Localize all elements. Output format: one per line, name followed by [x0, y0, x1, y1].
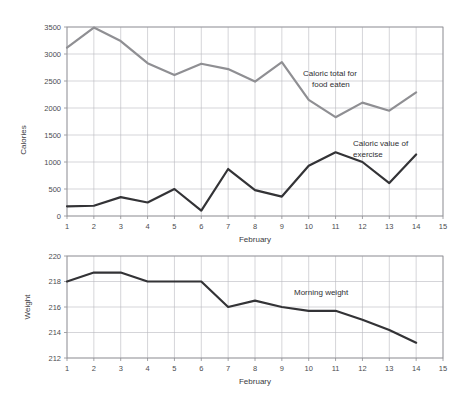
y-tick-label: 1500 — [44, 131, 61, 140]
x-tick-label: 10 — [305, 222, 313, 231]
x-tick-label: 8 — [253, 364, 257, 373]
annotation-exercise-line1: Caloric value of — [353, 139, 409, 148]
x-axis-title: February — [239, 235, 271, 244]
x-tick-label: 13 — [385, 364, 393, 373]
x-tick-label: 10 — [305, 364, 313, 373]
y-tick-label: 3500 — [44, 23, 61, 32]
x-tick-label: 2 — [92, 364, 96, 373]
x-tick-label: 14 — [412, 364, 420, 373]
x-tick-label: 5 — [172, 222, 176, 231]
y-tick-label: 218 — [48, 277, 61, 286]
x-tick-label: 3 — [119, 222, 123, 231]
x-tick-label: 5 — [172, 364, 176, 373]
x-tick-label: 9 — [280, 222, 284, 231]
annotation-exercise-line2: exercise — [353, 150, 383, 159]
figure-root: 0500100015002000250030003500123456789101… — [0, 0, 453, 402]
x-tick-label: 15 — [439, 222, 447, 231]
x-tick-label: 12 — [358, 222, 366, 231]
y-tick-label: 500 — [48, 185, 61, 194]
series-line-food-eaten — [67, 28, 416, 118]
x-tick-label: 3 — [119, 364, 123, 373]
y-tick-label: 2500 — [44, 77, 61, 86]
x-tick-label: 1 — [65, 364, 69, 373]
x-tick-label: 7 — [226, 364, 230, 373]
annotation-morning-weight: Morning weight — [294, 288, 349, 297]
y-tick-label: 220 — [48, 252, 61, 261]
x-tick-label: 9 — [280, 364, 284, 373]
y-tick-label: 1000 — [44, 158, 61, 167]
chart-page: 0500100015002000250030003500123456789101… — [0, 0, 453, 402]
annotation-food-eaten-line1: Caloric total for — [303, 69, 357, 78]
y-tick-label: 216 — [48, 303, 61, 312]
x-tick-label: 11 — [332, 364, 340, 373]
top-chart-calories: 0500100015002000250030003500123456789101… — [19, 23, 447, 244]
x-tick-label: 14 — [412, 222, 420, 231]
x-tick-label: 4 — [145, 364, 149, 373]
annotation-food-eaten-line2: food eaten — [312, 80, 350, 89]
x-tick-label: 7 — [226, 222, 230, 231]
y-tick-label: 2000 — [44, 104, 61, 113]
x-tick-label: 12 — [358, 364, 366, 373]
series-line-morning-weight — [67, 273, 416, 343]
x-tick-label: 6 — [199, 222, 203, 231]
y-tick-label: 214 — [48, 328, 61, 337]
y-axis-title: Weight — [23, 294, 32, 320]
x-axis-title: February — [239, 377, 271, 386]
y-tick-label: 0 — [57, 212, 61, 221]
x-tick-label: 8 — [253, 222, 257, 231]
x-tick-label: 4 — [145, 222, 149, 231]
x-tick-label: 11 — [332, 222, 340, 231]
x-tick-label: 1 — [65, 222, 69, 231]
bottom-chart-weight: 212214216218220123456789101112131415Weig… — [23, 252, 447, 386]
x-tick-label: 6 — [199, 364, 203, 373]
x-tick-label: 15 — [439, 364, 447, 373]
x-tick-label: 13 — [385, 222, 393, 231]
y-tick-label: 3000 — [44, 50, 61, 59]
y-axis-title: Calories — [19, 125, 28, 154]
series-line-exercise — [67, 152, 416, 210]
x-tick-label: 2 — [92, 222, 96, 231]
y-tick-label: 212 — [48, 354, 61, 363]
